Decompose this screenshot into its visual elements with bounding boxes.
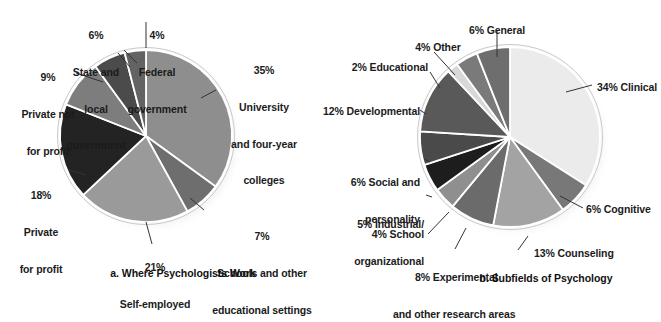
- label-federal-line2: Federal: [98, 66, 216, 78]
- label-experimental-research: 8% Experimental and other research areas: [393, 247, 535, 322]
- label-university-colleges: 35% University and four-year colleges: [215, 40, 313, 211]
- leader-line: [455, 228, 466, 249]
- label-private-for-profit: 18% Private for profit: [4, 165, 78, 299]
- label-federal-line3: government: [98, 103, 216, 115]
- label-clinical: 34% Clinical: [597, 81, 661, 93]
- label-other: 4% Other: [402, 41, 474, 53]
- caption-left-chart: a. Where Psychologists Work: [88, 267, 278, 279]
- label-school: 4% School: [348, 228, 424, 240]
- label-private-not-line2: Private not: [0, 108, 96, 120]
- label-counseling: 13% Counseling: [534, 247, 632, 259]
- label-university-line3: and four-year: [215, 138, 313, 150]
- label-federal-pct: 4%: [98, 29, 216, 41]
- label-schools-line3: educational settings: [194, 304, 330, 316]
- leader-line: [426, 195, 432, 197]
- label-developmental: 12% Developmental: [310, 105, 420, 117]
- label-university-line2: University: [215, 101, 313, 113]
- label-private-not-for-profit: 9% Private not for profit: [0, 47, 96, 181]
- label-general: 6% General: [452, 24, 542, 36]
- label-social-line1: 6% Social and: [318, 176, 420, 188]
- label-schools-pct: 7%: [194, 230, 330, 242]
- label-private-not-pct: 9%: [0, 71, 96, 83]
- label-educational: 2% Educational: [330, 61, 428, 73]
- label-experimental-line2: and other research areas: [393, 308, 535, 320]
- label-federal-government: 4% Federal government: [98, 5, 216, 139]
- label-cognitive: 6% Cognitive: [586, 203, 661, 215]
- label-private-for-line2: Private: [4, 226, 78, 238]
- label-private-not-line3: for profit: [0, 145, 96, 157]
- label-private-for-pct: 18%: [4, 189, 78, 201]
- pie-chart-subfields-of-psychology: [418, 45, 603, 230]
- caption-right-chart: b. Subfields of Psychology: [456, 272, 636, 284]
- label-university-pct: 35%: [215, 64, 313, 76]
- label-university-line4: colleges: [215, 174, 313, 186]
- leader-line: [428, 212, 449, 234]
- label-schools-educational-settings: 7% Schools and other educational setting…: [194, 206, 330, 322]
- label-private-for-line3: for profit: [4, 263, 78, 275]
